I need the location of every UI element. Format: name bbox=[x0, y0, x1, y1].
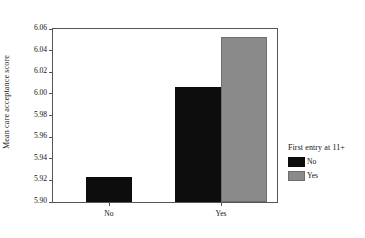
legend-item-yes: Yes bbox=[288, 171, 364, 181]
bar bbox=[86, 177, 132, 202]
legend-swatch-yes-icon bbox=[288, 171, 305, 181]
y-axis-tick-mark bbox=[49, 158, 53, 159]
y-axis-tick-label: 6.00 bbox=[17, 88, 47, 97]
legend-label-yes: Yes bbox=[307, 172, 318, 180]
y-axis-title: Mean care acceptance score bbox=[2, 0, 14, 22]
y-axis-tick-mark bbox=[49, 50, 53, 51]
y-axis-tick-mark bbox=[49, 29, 53, 30]
y-axis-tick-label: 5.98 bbox=[17, 110, 47, 119]
x-axis-tick-mark bbox=[109, 202, 110, 206]
y-axis-tick-label: 5.96 bbox=[17, 131, 47, 140]
bar bbox=[221, 37, 267, 202]
legend-title: First entry at 11+ bbox=[288, 143, 364, 152]
y-axis-tick-label: 5.94 bbox=[17, 153, 47, 162]
y-axis-tick-label: 6.06 bbox=[17, 23, 47, 32]
y-axis-tick-label: 6.04 bbox=[17, 45, 47, 54]
y-axis-tick-mark bbox=[49, 115, 53, 116]
y-axis-tick-mark bbox=[49, 93, 53, 94]
y-axis-tick-mark bbox=[49, 137, 53, 138]
bar-chart: Mean care acceptance score 5.905.925.945… bbox=[0, 0, 365, 238]
y-axis-tick-label: 6.02 bbox=[17, 66, 47, 75]
legend-item-no: No bbox=[288, 157, 364, 167]
y-axis-tick-mark bbox=[49, 72, 53, 73]
x-axis-tick-mark bbox=[221, 202, 222, 206]
y-axis-tick-label: 5.92 bbox=[17, 174, 47, 183]
y-axis-tick-label: 5.90 bbox=[17, 196, 47, 205]
bar bbox=[175, 87, 221, 202]
legend-label-no: No bbox=[307, 158, 316, 166]
x-axis-tick-label: Yes bbox=[191, 209, 251, 218]
y-axis-tick-mark bbox=[49, 180, 53, 181]
legend: First entry at 11+ No Yes bbox=[288, 143, 364, 185]
y-axis-title-text: Mean care acceptance score bbox=[2, 22, 11, 182]
plot-area: 5.905.925.945.965.986.006.026.046.06NoYe… bbox=[52, 28, 278, 203]
x-axis-tick-label: No bbox=[79, 209, 139, 218]
legend-swatch-no-icon bbox=[288, 157, 305, 167]
y-axis-tick-mark bbox=[49, 202, 53, 203]
